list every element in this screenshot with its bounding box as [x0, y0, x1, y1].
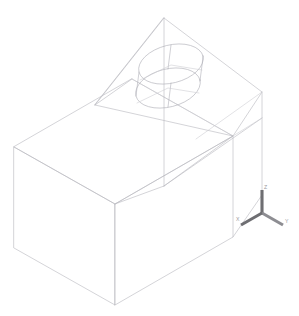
axis-x-arm [241, 213, 262, 225]
cylinder-quadrant-line-a [140, 65, 202, 80]
incline-left-base [95, 79, 132, 105]
incline-hidden-right-upper [233, 118, 262, 136]
cad-3d-viewport[interactable]: Z Y X [0, 0, 299, 316]
prism-left-face-edges [14, 147, 115, 305]
cylinder-quadrant-line-b [137, 88, 199, 103]
cylinder-boss [131, 38, 207, 115]
axis-label-x: X [236, 216, 240, 222]
incline-roof-plane [95, 18, 262, 136]
incline-base-to-front [164, 136, 233, 186]
cylinder-silhouette-left [136, 72, 139, 96]
incline-hidden-cross [196, 92, 262, 139]
axis-label-y: Y [285, 218, 289, 224]
axis-y-arm [262, 213, 283, 225]
incline-right-base-diagonal [164, 118, 262, 186]
prism-top-face-edges [14, 79, 233, 204]
inclined-block [95, 18, 262, 237]
axis-triad[interactable]: Z Y X [236, 184, 289, 225]
cylinder-seam-front [168, 83, 171, 107]
incline-left-slope [95, 18, 164, 105]
prism-front-face-edges [115, 136, 233, 305]
axis-label-z: Z [264, 184, 267, 190]
prism-back-edges [132, 79, 233, 136]
cylinder-silhouette-right [200, 57, 203, 81]
wireframe-model-canvas: Z Y X [0, 0, 299, 316]
prism-body [14, 79, 233, 305]
incline-base-left [115, 186, 164, 204]
